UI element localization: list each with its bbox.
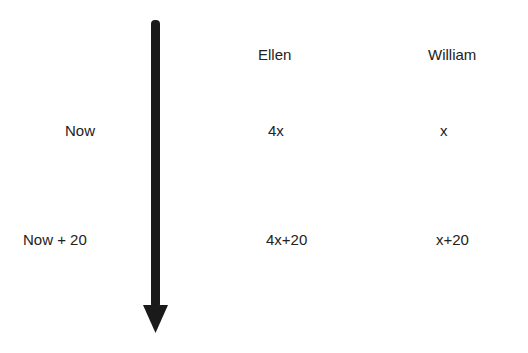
cell-william-now: x xyxy=(440,123,448,138)
column-header-ellen: Ellen xyxy=(258,47,291,62)
cell-william-now-plus-20: x+20 xyxy=(436,232,469,247)
row-label-now-plus-20: Now + 20 xyxy=(23,232,87,247)
row-label-now: Now xyxy=(65,123,95,138)
cell-ellen-now: 4x xyxy=(268,123,284,138)
column-header-william: William xyxy=(428,47,476,62)
cell-ellen-now-plus-20: 4x+20 xyxy=(266,232,307,247)
